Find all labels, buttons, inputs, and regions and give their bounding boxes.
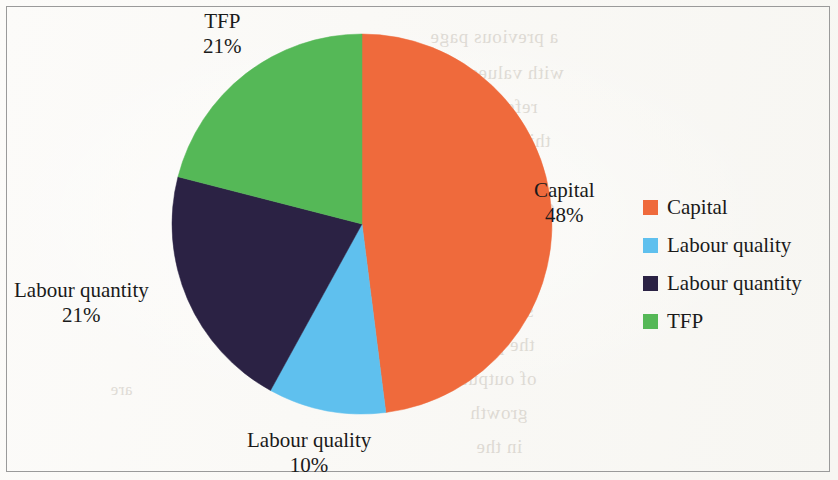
chart-legend: CapitalLabour qualityLabour quantityTFP [643, 196, 802, 332]
legend-label: Labour quality [667, 235, 791, 256]
slice-label-capital: Capital48% [534, 178, 595, 228]
slice-label-percent: 48% [534, 203, 595, 228]
pie-slice-capital[interactable] [362, 34, 552, 413]
legend-label: TFP [667, 311, 703, 332]
legend-item-tfp[interactable]: TFP [643, 310, 802, 332]
legend-swatch-icon [643, 314, 658, 329]
slice-label-percent: 21% [203, 34, 242, 59]
slice-label-name: Capital [534, 178, 595, 202]
legend-swatch-icon [643, 238, 658, 253]
legend-swatch-icon [643, 276, 658, 291]
chart-figure: a previous pagewith valuesreference toth… [0, 0, 838, 480]
slice-label-name: TFP [204, 9, 240, 33]
slice-label-percent: 10% [247, 453, 371, 478]
legend-swatch-icon [643, 200, 658, 215]
slice-label-labour-quality: Labour quality10% [247, 428, 371, 478]
legend-item-labour-quality[interactable]: Labour quality [643, 234, 802, 256]
pie-slice-group [172, 34, 552, 414]
legend-label: Labour quantity [667, 273, 802, 294]
slice-label-percent: 21% [14, 303, 149, 328]
slice-label-name: Labour quality [247, 428, 371, 452]
slice-label-name: Labour quantity [14, 278, 149, 302]
legend-item-labour-quantity[interactable]: Labour quantity [643, 272, 802, 294]
slice-label-labour-quantity: Labour quantity21% [14, 278, 149, 328]
legend-label: Capital [667, 197, 728, 218]
legend-item-capital[interactable]: Capital [643, 196, 802, 218]
slice-label-tfp: TFP21% [203, 9, 242, 59]
